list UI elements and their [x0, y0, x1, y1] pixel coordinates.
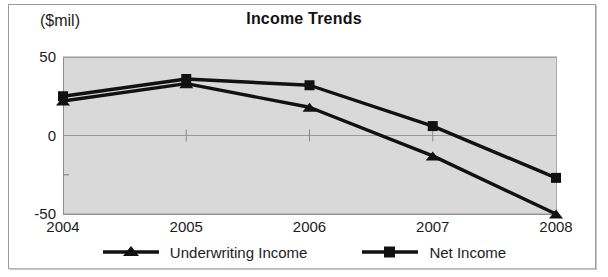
square-marker-icon: [384, 247, 395, 258]
x-axis-tick-label: 2007: [398, 218, 468, 235]
series-lines-group: [63, 79, 556, 214]
legend-label: Net Income: [429, 244, 506, 261]
legend-swatch: [361, 243, 419, 261]
legend-label: Underwriting Income: [170, 244, 308, 261]
square-marker-icon: [305, 80, 315, 90]
x-axis-tick-label: 2005: [151, 218, 221, 235]
square-marker-icon: [551, 173, 561, 183]
legend-swatch: [102, 243, 160, 261]
y-axis-tick-label: 50: [4, 48, 56, 65]
x-axis-tick-label: 2006: [275, 218, 345, 235]
square-marker-icon: [58, 91, 68, 101]
legend-divider: [9, 268, 595, 269]
square-marker-icon: [428, 121, 438, 131]
series-markers-group: [56, 74, 563, 219]
page-title: Income Trends: [0, 10, 608, 28]
series-line-net-income: [63, 79, 556, 178]
legend-entry: Underwriting Income: [102, 243, 308, 261]
y-axis-tick-label: 0: [4, 127, 56, 144]
plot-svg: [63, 57, 557, 215]
legend-entry: Net Income: [361, 243, 506, 261]
square-marker-icon: [181, 74, 191, 84]
x-axis-tick-label: 2008: [521, 218, 591, 235]
chart-legend: Underwriting IncomeNet Income: [0, 243, 608, 261]
x-axis-tick-label: 2004: [28, 218, 98, 235]
income-trends-chart-figure: ($mil) Income Trends 500-50 200420052006…: [0, 0, 608, 277]
